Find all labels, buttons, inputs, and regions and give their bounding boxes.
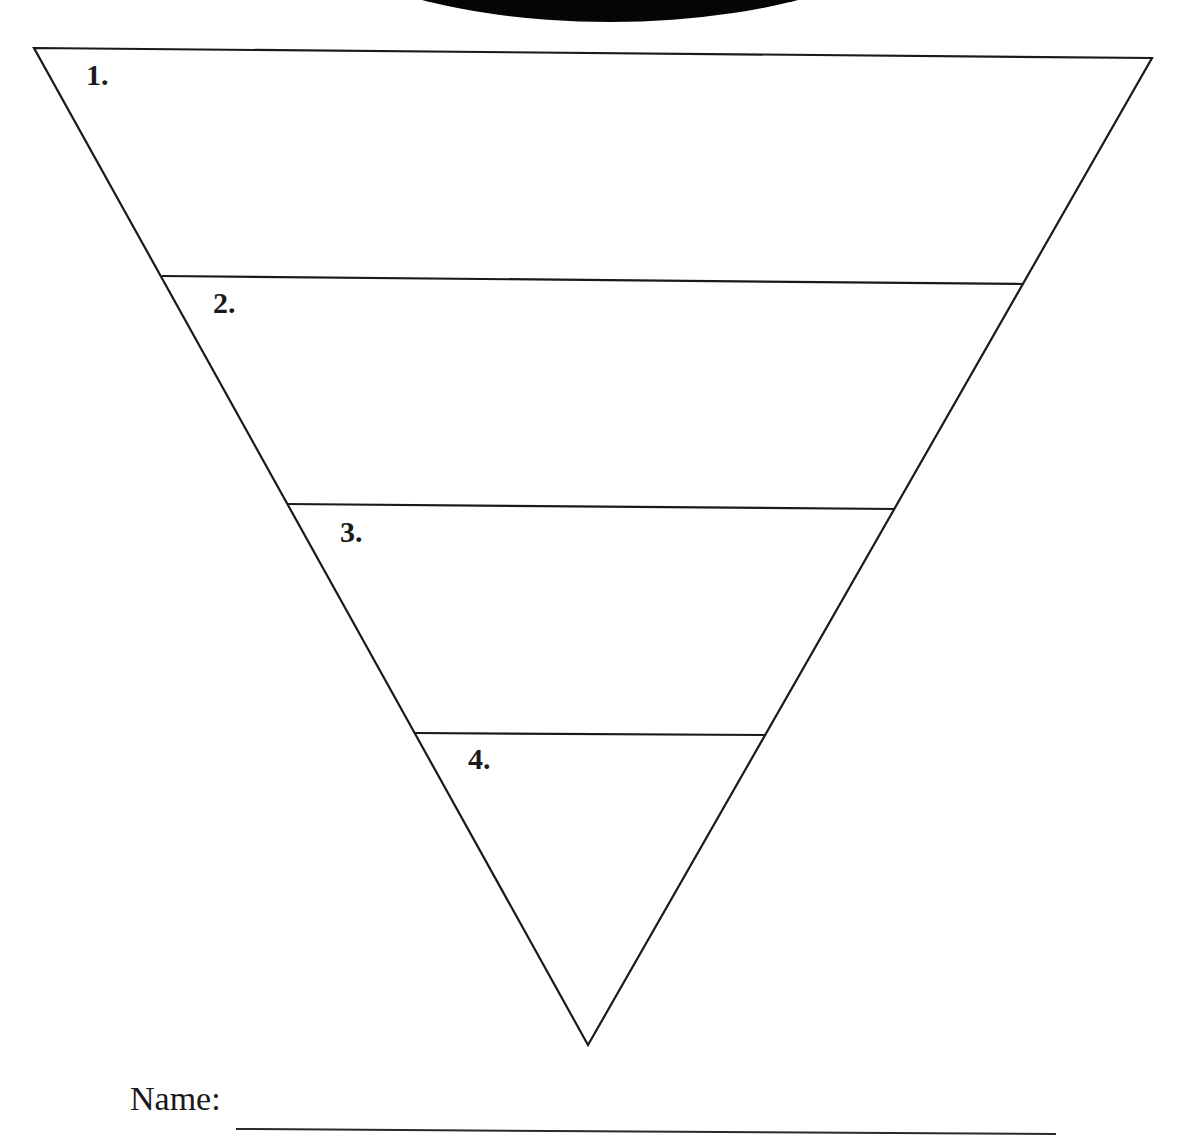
section-4-label: 4. <box>468 744 491 774</box>
section-1[interactable] <box>80 55 1080 270</box>
section-4[interactable] <box>460 740 720 980</box>
section-3[interactable] <box>330 512 850 727</box>
divider-line-1 <box>162 276 1022 284</box>
divider-line-3 <box>414 733 765 735</box>
section-3-label: 3. <box>340 517 363 547</box>
inverted-pyramid-worksheet: 1. 2. 3. 4. Name: <box>0 0 1184 1148</box>
divider-line-2 <box>287 504 895 509</box>
section-1-label: 1. <box>86 60 109 90</box>
name-label: Name: <box>130 1080 221 1118</box>
section-2-label: 2. <box>213 288 236 318</box>
section-2[interactable] <box>205 285 985 500</box>
header-ellipse <box>288 0 932 22</box>
